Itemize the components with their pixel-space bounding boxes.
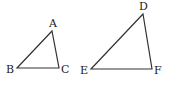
vertex-label-d: D (139, 0, 148, 13)
vertex-label-f: F (154, 64, 162, 77)
vertex-label-e: E (80, 64, 88, 77)
diagram-canvas: A B C D E F (0, 0, 171, 87)
triangle-abc (17, 31, 59, 68)
triangle-diagram: A B C D E F (0, 0, 171, 87)
vertex-label-a: A (48, 17, 58, 30)
vertex-label-b: B (6, 63, 14, 76)
triangle-def (91, 14, 152, 69)
vertex-label-c: C (61, 63, 69, 76)
